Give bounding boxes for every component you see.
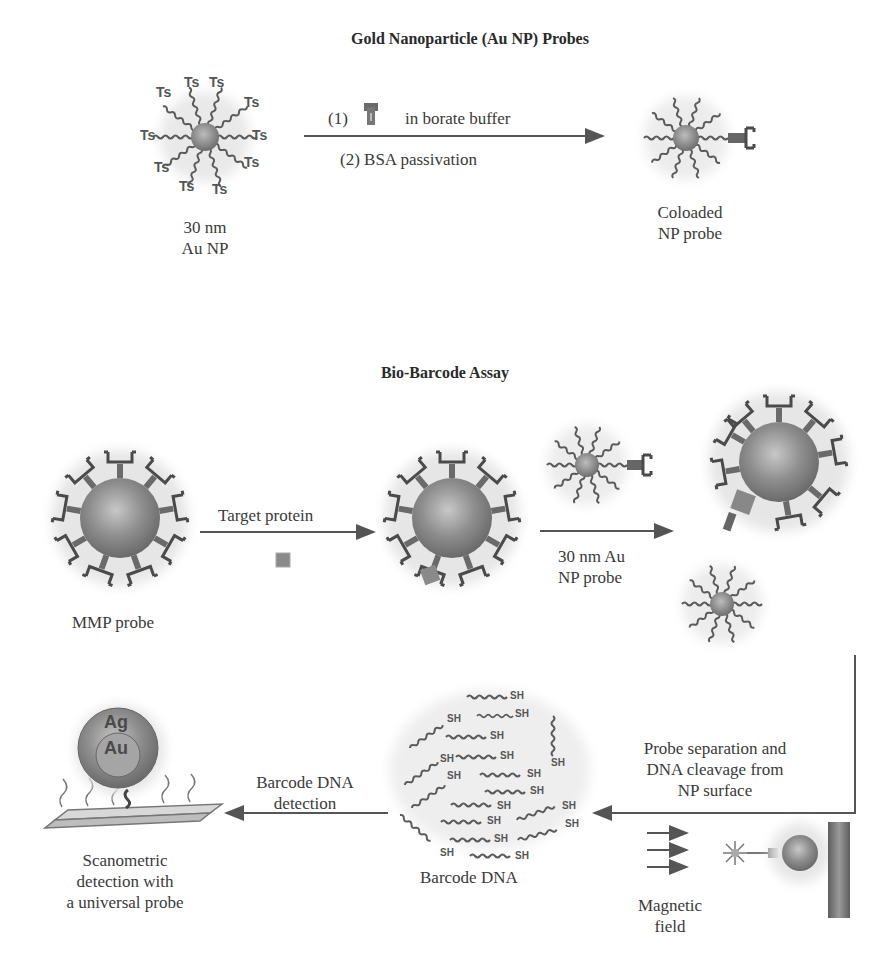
- ts-label: Ts: [140, 127, 155, 143]
- target-protein-icon: [276, 553, 290, 567]
- mmp-probe-label: MMP probe: [72, 612, 154, 633]
- magnetic-field-arrows: [647, 833, 687, 867]
- scanometric-chip: [45, 705, 222, 828]
- step2-label: (2) BSA passivation: [340, 149, 477, 170]
- ts-label: Ts: [244, 154, 259, 170]
- ts-label: Ts: [252, 127, 267, 143]
- step1-suffix: in borate buffer: [405, 108, 510, 129]
- probe-separation-label: Probe separation and DNA cleavage from N…: [605, 738, 825, 801]
- diagram-graphics: [0, 0, 895, 969]
- ts-ligand-labels: Ts Ts Ts Ts Ts Ts Ts Ts Ts Ts: [144, 64, 274, 214]
- coloaded-np-probe: [644, 96, 754, 180]
- mmp-probe: [52, 450, 188, 586]
- bottom-panel-title: Bio-Barcode Assay: [330, 362, 560, 383]
- top-panel-title: Gold Nanoparticle (Au NP) Probes: [300, 28, 640, 49]
- ts-label: Ts: [212, 181, 227, 197]
- au-np-probe-small: [547, 425, 651, 505]
- ts-label: Ts: [184, 74, 199, 90]
- ts-label: Ts: [156, 84, 171, 100]
- barcode-dna-label: Barcode DNA: [420, 867, 518, 888]
- magnet-bar: [828, 822, 850, 918]
- magnet-captured-probe: [723, 822, 850, 918]
- au-np-label: 30 nm Au NP: [150, 217, 260, 259]
- scanometric-label: Scanometric detection with a universal p…: [40, 850, 210, 913]
- mmp-probe-bound: [384, 450, 520, 586]
- au-np-probe-label: 30 nm Au NP probe: [558, 546, 625, 588]
- sandwich-np-probe: [682, 564, 762, 644]
- antibody-icon: [364, 103, 378, 125]
- magnetic-field-label: Magnetic field: [630, 895, 710, 937]
- ts-label: Ts: [154, 159, 169, 175]
- ts-label: Ts: [244, 94, 259, 110]
- silver-label: Ag: [104, 712, 128, 733]
- ts-label: Ts: [209, 74, 224, 90]
- ts-label: Ts: [179, 178, 194, 194]
- barcode-dna-cluster: [390, 690, 590, 850]
- target-protein-label: Target protein: [218, 505, 313, 526]
- coloaded-probe-label: Coloaded NP probe: [630, 202, 750, 244]
- sandwich-complex: [709, 392, 849, 532]
- gold-label: Au: [104, 738, 128, 759]
- barcode-detection-label: Barcode DNA detection: [240, 772, 370, 814]
- step1-prefix: (1): [328, 108, 348, 129]
